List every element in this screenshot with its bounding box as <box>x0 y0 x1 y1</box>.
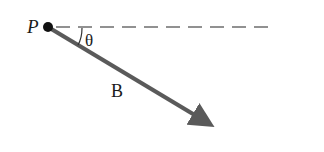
point-p-label: P <box>26 16 39 37</box>
point-p-dot <box>43 22 53 32</box>
vector-b-arrow <box>48 27 208 123</box>
angle-arc <box>78 28 82 45</box>
vector-diagram: P θ B <box>0 0 324 152</box>
vector-b-label: B <box>111 81 123 101</box>
angle-theta-label: θ <box>85 31 93 50</box>
